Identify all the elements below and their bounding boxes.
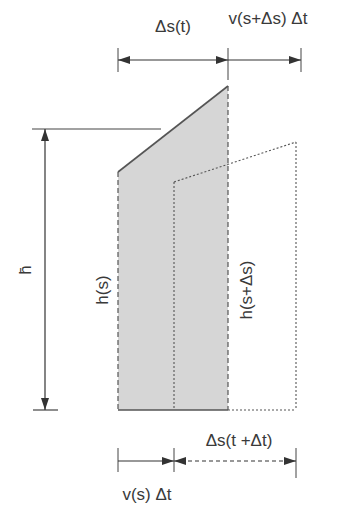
label-h-s-plus-delta-s: h(s+Δs) [237, 260, 256, 319]
label-v-s-delta-t: v(s) Δt [122, 485, 171, 504]
label-h-bar: h̄ [16, 265, 35, 274]
diagram-canvas: Δs(t) v(s+Δs) Δt h̄ h(s) h(s+Δs) Δs(t +Δ… [0, 0, 347, 526]
label-v-s-plus-delta-t: v(s+Δs) Δt [229, 9, 308, 28]
label-h-s: h(s) [93, 275, 112, 304]
label-delta-s-t: Δs(t) [155, 17, 191, 36]
label-delta-s-t-plus-delta-t: Δs(t +Δt) [206, 431, 273, 450]
shaded-column [118, 86, 228, 410]
